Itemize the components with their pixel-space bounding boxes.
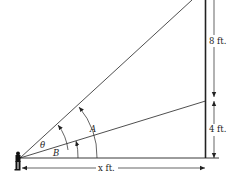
label-8ft: 8 ft. (209, 36, 226, 46)
label-4ft: 4 ft. (209, 124, 226, 134)
elevation-diagram: 8 ft. 4 ft. x ft. θ A B (0, 0, 230, 188)
angle-arc-B (76, 141, 78, 158)
label-A: A (89, 124, 96, 134)
label-x-ft: x ft. (98, 163, 115, 173)
upper-sight-line (20, 0, 192, 158)
lower-sight-line (20, 101, 206, 158)
observer-figure-icon (15, 152, 21, 171)
label-theta: θ (40, 140, 45, 150)
label-B: B (52, 148, 59, 158)
